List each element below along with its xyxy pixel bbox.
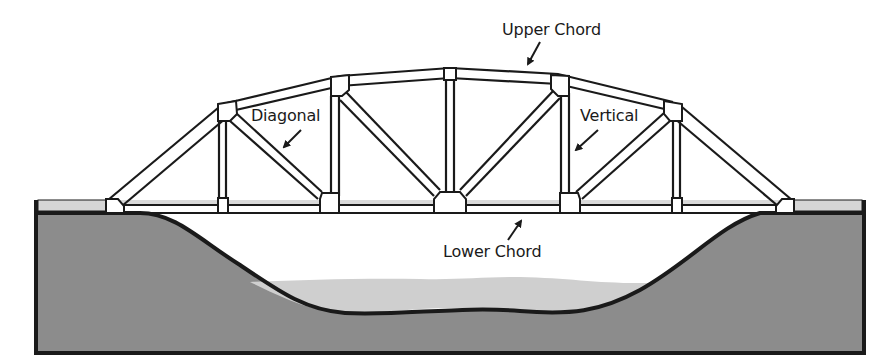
diagonal-arrow <box>284 130 301 147</box>
label-upper-chord: Upper Chord <box>502 20 601 39</box>
gusset-plates <box>106 68 794 213</box>
upper-chord-arrow <box>528 42 540 64</box>
truss-bridge-diagram: Upper Chord Diagonal Vertical Lower Chor… <box>0 0 895 363</box>
label-vertical: Vertical <box>580 106 638 125</box>
vertical-arrow <box>576 130 598 150</box>
lower-chord-arrow <box>508 221 521 240</box>
label-lower-chord: Lower Chord <box>443 242 541 261</box>
deck-approach-right <box>792 200 862 211</box>
deck-approach-left <box>38 200 110 211</box>
label-diagonal: Diagonal <box>251 106 320 125</box>
